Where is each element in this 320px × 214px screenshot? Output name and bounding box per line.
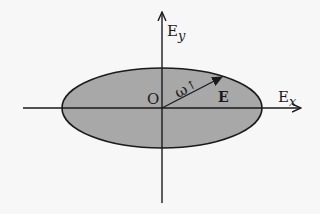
origin-label: O: [147, 90, 159, 108]
vector-label: E: [218, 89, 229, 105]
diagram-svg: Ey Ex O E ω ↑: [0, 0, 320, 214]
y-axis-label: Ey: [167, 22, 186, 43]
x-axis-label: Ex: [278, 88, 297, 109]
polarization-diagram: Ey Ex O E ω ↑: [0, 0, 320, 214]
